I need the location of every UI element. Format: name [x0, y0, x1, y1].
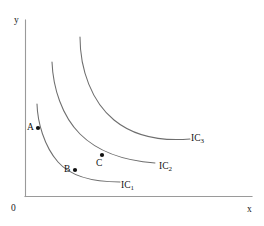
curve-label-ic1-text: IC [121, 180, 131, 190]
point-label-b: B [64, 165, 70, 175]
data-point-a [36, 126, 40, 130]
axes-group [25, 20, 252, 197]
curve-label-ic3-subscript: 3 [201, 137, 205, 145]
curve-label-ic3-text: IC [191, 133, 201, 143]
indifference-curve-ic3 [80, 37, 190, 140]
indifference-curve-ic2 [52, 62, 155, 163]
curve-label-ic2-subscript: 2 [169, 165, 173, 173]
curve-label-ic1-subscript: 1 [131, 184, 135, 192]
curve-label-ic3: IC3 [191, 134, 204, 144]
x-axis-label: x [247, 205, 252, 215]
data-point-c [100, 153, 104, 157]
diagram-canvas [0, 0, 264, 226]
data-point-b [73, 168, 77, 172]
indifference-curve-diagram: y x 0 A B C IC1 IC2 IC3 [0, 0, 264, 226]
point-label-c: C [96, 159, 102, 169]
curve-label-ic2-text: IC [159, 161, 169, 171]
y-axis-label: y [14, 16, 19, 26]
indifference-curve-ic1 [37, 104, 120, 182]
point-label-a: A [27, 123, 34, 133]
origin-label: 0 [11, 204, 16, 214]
curve-label-ic1: IC1 [121, 181, 134, 191]
curve-label-ic2: IC2 [159, 162, 172, 172]
